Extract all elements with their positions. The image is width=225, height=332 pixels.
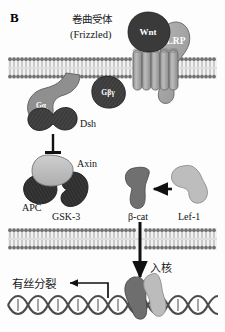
g-beta-gamma-label: Gβγ [101, 88, 115, 97]
frizzled-receptor [133, 49, 178, 90]
g-beta-gamma-subunit: Gβγ [92, 76, 126, 108]
mitosis-label: 有丝分裂 [12, 277, 57, 291]
frizzled-caption-en: (Frizzled) [70, 29, 112, 41]
frizzled-caption-cn: 卷曲受体 [72, 13, 113, 25]
enter-nucleus-label: 入核 [150, 261, 172, 275]
panel-letter: B [10, 10, 19, 25]
dsh-label: Dsh [80, 118, 96, 129]
beta-cat-label: β-cat [128, 211, 148, 222]
axin-label: Axin [77, 158, 97, 169]
lef1-label: Lef-1 [178, 211, 200, 222]
figure-canvas: LRP Wnt 卷曲受体 (Frizzled) B Gαs [0, 0, 225, 332]
apc-label: APC [22, 202, 42, 213]
wnt-label: Wnt [139, 27, 156, 37]
axin-protein [32, 155, 73, 186]
nuclear-membrane [8, 228, 217, 250]
gsk3-label: GSK-3 [52, 211, 80, 222]
wnt-ligand: Wnt [128, 12, 170, 52]
plasma-membrane [8, 57, 217, 79]
